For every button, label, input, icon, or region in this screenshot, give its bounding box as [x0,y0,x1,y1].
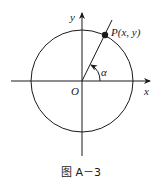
point-label: P(x, y) [110,26,141,39]
angle-label: α [101,66,107,78]
origin-label: O [71,85,79,97]
x-axis-label: x [143,85,149,97]
figure-caption: 图 A－3 [61,166,101,179]
y-axis-label: y [69,11,75,23]
angle-arc [91,65,100,81]
terminal-ray [82,20,112,81]
point-p [102,32,108,38]
unit-circle-diagram: y x O P(x, y) α 图 A－3 [0,0,162,182]
